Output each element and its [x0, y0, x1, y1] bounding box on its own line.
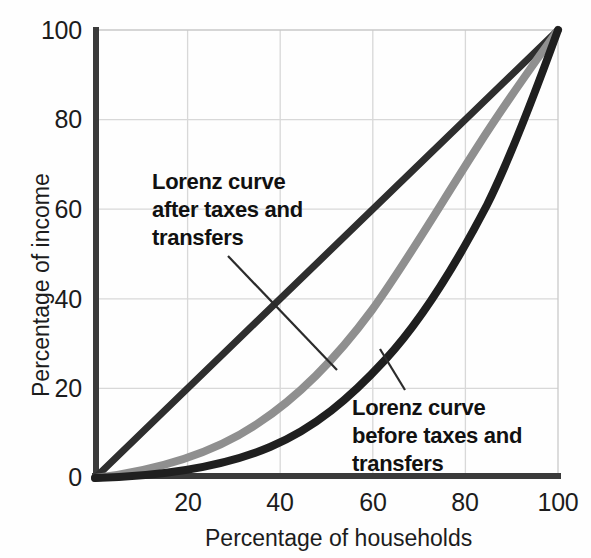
annotation-after-line-1: Lorenz curve — [152, 168, 303, 196]
lorenz-curve-chart: 100 80 60 40 20 0 20 40 60 80 100 Percen… — [0, 0, 591, 558]
annotation-after-line-2: after taxes and — [152, 196, 303, 224]
x-axis-title: Percentage of households — [205, 525, 472, 552]
y-tick-label-0: 0 — [10, 463, 82, 492]
annotation-after-taxes: Lorenz curve after taxes and transfers — [152, 168, 303, 252]
x-tick-label-60: 60 — [333, 488, 413, 517]
x-tick-label-40: 40 — [240, 488, 320, 517]
y-axis-title: Percentage of income — [28, 173, 55, 397]
annotation-before-taxes: Lorenz curve before taxes and transfers — [352, 394, 522, 478]
y-tick-label-80: 80 — [10, 105, 82, 134]
annotation-after-line-3: transfers — [152, 224, 303, 252]
x-tick-label-20: 20 — [148, 488, 228, 517]
x-tick-label-80: 80 — [425, 488, 505, 517]
leader-line-after-taxes — [228, 256, 337, 370]
annotation-before-line-2: before taxes and — [352, 422, 522, 450]
annotation-before-line-3: transfers — [352, 450, 522, 478]
y-tick-label-100: 100 — [10, 16, 82, 45]
annotation-before-line-1: Lorenz curve — [352, 394, 522, 422]
x-tick-label-100: 100 — [518, 488, 591, 517]
